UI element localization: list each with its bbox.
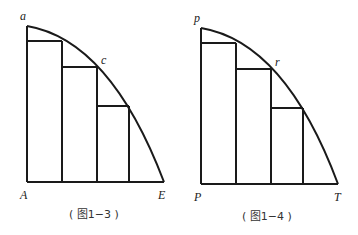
label-origin: P [193,190,202,204]
figure-1-4: p r P T ( 图1−4 ) [193,11,342,223]
caption: ( 图1−3 ) [69,208,119,221]
label-mid: r [275,55,280,69]
figure-1-3: a c A E ( 图1−3 ) [19,9,166,221]
label-top: a [20,9,26,23]
curve-p-t [201,28,338,184]
label-end: E [157,188,166,202]
label-origin: A [19,188,28,202]
label-end: T [334,190,342,204]
label-top: p [193,11,200,25]
caption: ( 图1−4 ) [242,210,292,223]
diagram-canvas: a c A E ( 图1−3 ) p r P T ( 图1−4 ) [0,0,358,235]
curve-a-e [27,26,164,182]
label-mid: c [101,53,107,67]
